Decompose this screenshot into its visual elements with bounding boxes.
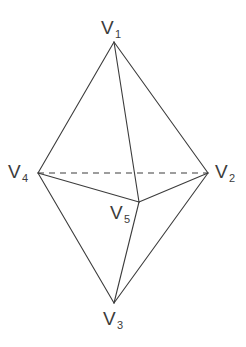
edge-v1-v2 [114,42,208,173]
vertex-label-v2-subscript: 2 [229,172,235,184]
vertex-label-v4-base: V [8,161,21,182]
vertex-label-v3-subscript: 3 [117,319,123,331]
vertex-label-v3: V3 [103,309,122,328]
vertex-label-v2-base: V [215,161,228,182]
bipyramid-figure [0,0,246,347]
vertex-label-v4: V4 [8,162,27,181]
vertex-label-v3-base: V [103,308,116,329]
vertex-label-v1: V1 [101,18,120,37]
vertex-label-v2: V2 [215,162,234,181]
edge-v4-v5 [38,173,139,202]
vertex-label-v5-subscript: 5 [124,213,130,225]
edge-v1-v5 [114,42,139,202]
vertex-label-v5-base: V [110,202,123,223]
edge-v1-v4 [38,42,114,173]
vertex-label-v1-base: V [101,17,114,38]
vertex-label-v1-subscript: 1 [115,28,121,40]
edge-v4-v3 [38,173,114,303]
vertex-label-v4-subscript: 4 [22,172,28,184]
vertex-label-v5: V5 [110,203,129,222]
diagram-canvas: V1 V2 V3 V4 V5 [0,0,246,347]
